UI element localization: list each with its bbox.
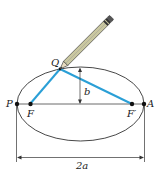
label-a: A xyxy=(146,98,154,109)
label-b: b xyxy=(84,86,90,97)
label-2a: 2a xyxy=(75,160,88,171)
label-p: P xyxy=(5,98,13,109)
label-f-prime: F′ xyxy=(126,108,137,119)
point-f xyxy=(28,102,32,106)
major-axis-dimension xyxy=(17,156,144,160)
semi-minor-dimension xyxy=(78,68,82,105)
label-q: Q xyxy=(51,57,59,68)
string-segment-q-fprime xyxy=(60,69,132,104)
ellipse-diagram: b 2a P A F F′ Q xyxy=(0,0,167,175)
pencil-icon xyxy=(58,15,114,71)
point-p xyxy=(15,102,19,106)
point-a xyxy=(142,102,146,106)
point-f-prime xyxy=(130,102,134,106)
label-f: F xyxy=(26,108,35,119)
string-segment-f-q xyxy=(30,69,60,104)
